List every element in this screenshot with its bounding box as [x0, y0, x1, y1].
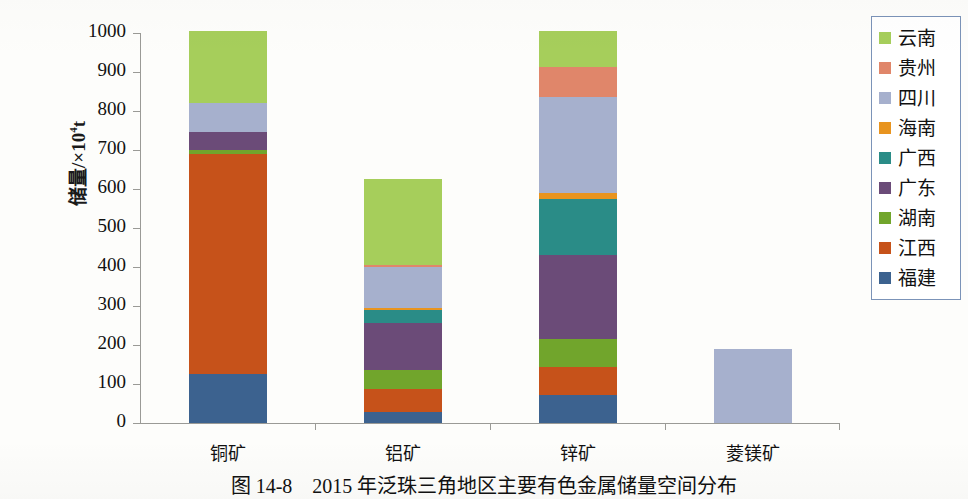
y-axis-title-unit: t — [68, 121, 89, 127]
legend-item[interactable]: 云南 — [879, 23, 955, 53]
bar-segment[interactable] — [189, 132, 267, 150]
x-axis-tick-label: 铜矿 — [168, 439, 288, 465]
legend-item[interactable]: 贵州 — [879, 53, 955, 83]
bar-segment[interactable] — [364, 389, 442, 412]
bar-segment[interactable] — [364, 310, 442, 324]
y-axis-tick-label: 200 — [98, 332, 127, 354]
bar-segment[interactable] — [364, 308, 442, 310]
legend-item-label: 湖南 — [898, 209, 936, 228]
legend-item[interactable]: 湖南 — [879, 203, 955, 233]
y-axis-tick-label: 0 — [117, 410, 127, 432]
y-axis-tick-label: 1000 — [88, 20, 126, 42]
y-axis-title-text: 储量/×10 — [68, 133, 89, 206]
bar-segment[interactable] — [539, 199, 617, 256]
bar-segment[interactable] — [539, 97, 617, 193]
legend-swatch-icon — [879, 242, 891, 254]
x-axis-tick-label: 铝矿 — [343, 439, 463, 465]
y-axis-tick-label: 100 — [98, 371, 127, 393]
bar-segment[interactable] — [364, 179, 442, 264]
x-axis-tick — [839, 423, 840, 430]
figure-caption: 图 14-8 2015 年泛珠三角地区主要有色金属储量空间分布 — [0, 470, 968, 499]
bar-segment[interactable] — [539, 367, 617, 395]
legend-item-label: 广东 — [898, 179, 936, 198]
bar-segment[interactable] — [189, 103, 267, 132]
x-axis-tick — [665, 423, 666, 430]
bar-segment[interactable] — [539, 193, 617, 199]
y-axis-tick-label: 700 — [98, 137, 127, 159]
plot-area: 01002003004005006007008009001000 铜矿铝矿锌矿菱… — [140, 33, 840, 423]
y-axis-tick — [133, 189, 140, 190]
bar-segment[interactable] — [714, 349, 792, 423]
legend-item-label: 福建 — [898, 269, 936, 288]
legend-item[interactable]: 江西 — [879, 233, 955, 263]
bar-segment[interactable] — [539, 339, 617, 367]
x-axis-tick — [490, 423, 491, 430]
legend-swatch-icon — [879, 212, 891, 224]
bar-segment[interactable] — [189, 154, 267, 374]
legend-swatch-icon — [879, 122, 891, 134]
legend-item[interactable]: 广西 — [879, 143, 955, 173]
legend-swatch-icon — [879, 32, 891, 44]
y-axis-tick — [133, 72, 140, 73]
y-axis-tick — [133, 423, 140, 424]
x-axis-tick-label: 锌矿 — [518, 439, 638, 465]
y-axis-tick-label: 400 — [98, 254, 127, 276]
y-axis-tick — [133, 228, 140, 229]
y-axis-tick — [133, 345, 140, 346]
legend-item-label: 云南 — [898, 29, 936, 48]
y-axis-tick — [133, 306, 140, 307]
legend-item[interactable]: 广东 — [879, 173, 955, 203]
legend-item-label: 四川 — [898, 89, 936, 108]
stacked-bar[interactable] — [539, 33, 617, 423]
y-axis-title: 储量/×104t — [63, 94, 90, 234]
y-axis-tick — [133, 267, 140, 268]
y-axis-tick-label: 800 — [98, 98, 127, 120]
bar-segment[interactable] — [539, 395, 617, 423]
legend-swatch-icon — [879, 62, 891, 74]
y-axis-tick-label: 300 — [98, 293, 127, 315]
y-axis-line — [140, 33, 141, 423]
bar-segment[interactable] — [189, 374, 267, 423]
x-axis-tick — [315, 423, 316, 430]
stacked-bar[interactable] — [714, 33, 792, 423]
legend-item[interactable]: 四川 — [879, 83, 955, 113]
y-axis-tick — [133, 33, 140, 34]
legend-item-label: 江西 — [898, 239, 936, 258]
figure-container: 储量/×104t 0100200300400500600700800900100… — [0, 0, 968, 499]
bar-segment[interactable] — [189, 31, 267, 103]
y-axis-tick-label: 900 — [98, 59, 127, 81]
legend-item[interactable]: 福建 — [879, 263, 955, 293]
bar-segment[interactable] — [539, 31, 617, 67]
legend-swatch-icon — [879, 272, 891, 284]
stacked-bar[interactable] — [189, 33, 267, 423]
y-axis-tick-label: 600 — [98, 176, 127, 198]
y-axis-title-exponent: 4 — [67, 127, 79, 133]
y-axis-tick — [133, 111, 140, 112]
bar-segment[interactable] — [364, 265, 442, 267]
legend-swatch-icon — [879, 182, 891, 194]
y-axis-tick-label: 500 — [98, 215, 127, 237]
legend-item[interactable]: 海南 — [879, 113, 955, 143]
y-axis-tick — [133, 384, 140, 385]
legend: 云南贵州四川海南广西广东湖南江西福建 — [871, 16, 961, 300]
bar-segment[interactable] — [364, 267, 442, 308]
legend-swatch-icon — [879, 152, 891, 164]
bar-segment[interactable] — [364, 412, 442, 423]
legend-item-label: 海南 — [898, 119, 936, 138]
bar-segment[interactable] — [364, 370, 442, 390]
legend-swatch-icon — [879, 92, 891, 104]
bar-segment[interactable] — [539, 255, 617, 339]
legend-item-label: 贵州 — [898, 59, 936, 78]
bar-segment[interactable] — [539, 67, 617, 97]
y-axis-tick — [133, 150, 140, 151]
x-axis-tick-label: 菱镁矿 — [693, 439, 813, 465]
bar-segment[interactable] — [189, 150, 267, 154]
legend-item-label: 广西 — [898, 149, 936, 168]
bar-segment[interactable] — [364, 323, 442, 370]
stacked-bar[interactable] — [364, 33, 442, 423]
